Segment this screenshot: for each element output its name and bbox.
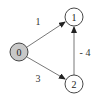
node-2: 2 xyxy=(65,75,83,93)
node-0: 0 xyxy=(10,43,28,61)
edge-0-to-2 xyxy=(27,57,65,79)
edge-0-to-1 xyxy=(27,22,65,47)
graph-diagram: 1 3 - 4 0 1 2 xyxy=(0,0,93,100)
node-1: 1 xyxy=(65,8,83,26)
edge-weight-2-1: - 4 xyxy=(80,47,91,58)
node-label: 0 xyxy=(17,47,22,58)
edge-weight-0-2: 3 xyxy=(36,73,41,84)
node-label: 1 xyxy=(72,12,77,23)
node-label: 2 xyxy=(72,79,77,90)
edge-weight-0-1: 1 xyxy=(36,16,41,27)
